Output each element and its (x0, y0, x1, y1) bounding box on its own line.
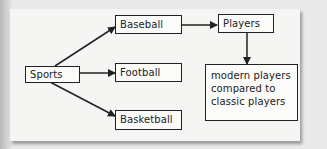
edge-sports-basketball (50, 82, 115, 116)
node-comparison: modern players compared to classic playe… (205, 64, 298, 121)
node-sports: Sports (25, 66, 80, 83)
node-football: Football (115, 63, 182, 82)
node-baseball: Baseball (115, 15, 182, 34)
node-players: Players (218, 14, 274, 33)
edge-sports-baseball (55, 27, 115, 66)
node-basketball: Basketball (115, 110, 182, 130)
